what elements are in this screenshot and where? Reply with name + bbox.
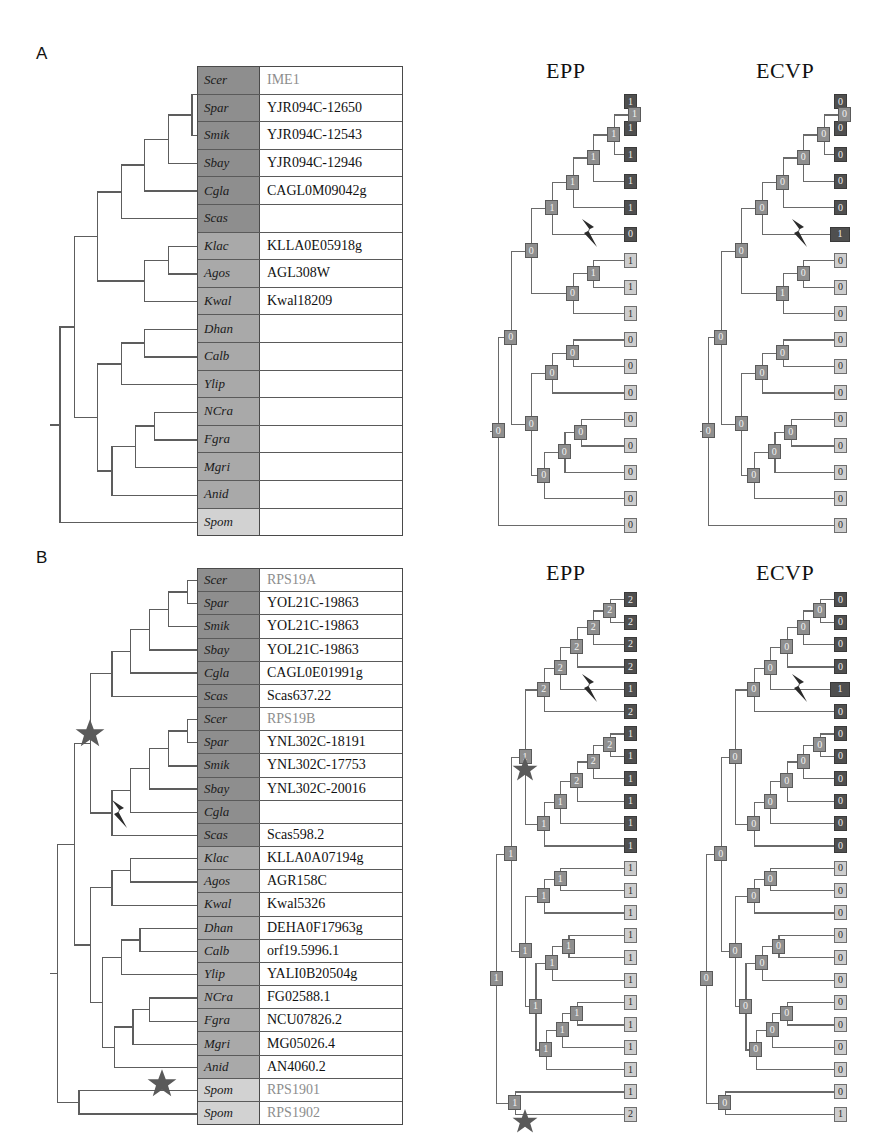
tree-branch bbox=[791, 445, 834, 446]
table-row: Calborf19.5996.1 bbox=[198, 940, 402, 963]
leaf-state-box: 0 bbox=[834, 592, 847, 607]
leaf-state-box: 0 bbox=[834, 412, 847, 427]
internal-node-state-box: 0 bbox=[492, 423, 505, 438]
leaf-state-box: 1 bbox=[834, 1107, 847, 1122]
species-label: Sbay bbox=[198, 778, 260, 800]
tree-branch bbox=[149, 997, 202, 998]
species-label: Smik bbox=[198, 122, 260, 149]
tree-branch bbox=[168, 591, 169, 626]
table-row: KlacKLLA0A07194g bbox=[198, 847, 402, 870]
table-row: Anid bbox=[198, 481, 402, 509]
tree-branch bbox=[154, 439, 202, 440]
internal-node-state-box: 2 bbox=[603, 603, 616, 618]
panel-a-epp-tree: 111110111000000001111110000000000 bbox=[490, 88, 640, 538]
internal-node-state-box: 0 bbox=[755, 365, 768, 380]
tree-branch bbox=[610, 756, 624, 757]
species-label: Scas bbox=[198, 685, 260, 707]
panel-b-epp-title: EPP bbox=[546, 560, 585, 586]
table-row: AgosAGR158C bbox=[198, 870, 402, 893]
lightning-bolt-icon bbox=[578, 218, 600, 252]
internal-node-state-box: 1 bbox=[562, 939, 575, 954]
tree-branch bbox=[59, 326, 73, 327]
panel-b-gene-table: ScerRPS19ASparYOL21C-19863SmikYOL21C-198… bbox=[197, 568, 403, 1125]
tree-branch bbox=[149, 649, 202, 650]
tree-branch bbox=[498, 525, 624, 526]
panel-b-ecvp-tree: 0000100000000000000000010000000000000000… bbox=[700, 588, 850, 1125]
internal-node-state-box: 0 bbox=[797, 266, 810, 281]
leaf-state-box: 0 bbox=[624, 491, 637, 506]
table-row: SpomRPS1901 bbox=[198, 1079, 402, 1102]
species-label: Scer bbox=[198, 569, 260, 591]
internal-node-state-box: 0 bbox=[545, 365, 558, 380]
internal-node-state-box: 1 bbox=[554, 794, 567, 809]
leaf-state-box: 0 bbox=[834, 491, 847, 506]
tree-branch bbox=[74, 743, 75, 945]
panel-b-letter: B bbox=[36, 548, 47, 568]
panel-a-epp-title: EPP bbox=[546, 58, 585, 84]
tree-branch bbox=[725, 1114, 834, 1115]
internal-node-state-box: 2 bbox=[587, 754, 600, 769]
tree-branch bbox=[130, 858, 131, 881]
tree-branch bbox=[132, 1009, 133, 1044]
internal-node-state-box: 1 bbox=[554, 871, 567, 886]
gene-name: NCU07826.2 bbox=[260, 1009, 402, 1031]
tree-branch bbox=[57, 844, 73, 845]
internal-node-state-box: 0 bbox=[525, 416, 538, 431]
leaf-state-box: 0 bbox=[834, 615, 847, 630]
tree-branch bbox=[754, 711, 834, 712]
species-label: Spom bbox=[198, 1102, 260, 1124]
tree-branch bbox=[132, 1044, 202, 1045]
species-label: Smik bbox=[198, 615, 260, 637]
internal-node-state-box: 0 bbox=[784, 425, 797, 440]
internal-node-state-box: 1 bbox=[545, 200, 558, 215]
tree-branch bbox=[820, 733, 834, 734]
tree-branch bbox=[139, 928, 202, 929]
leaf-state-box: 1 bbox=[624, 1062, 637, 1077]
internal-node-state-box: 0 bbox=[525, 243, 538, 258]
tree-branch bbox=[78, 1090, 79, 1113]
species-label: Calb bbox=[198, 940, 260, 962]
internal-node-state-box: 1 bbox=[628, 107, 641, 122]
internal-node-state-box: 0 bbox=[813, 603, 826, 618]
tree-branch bbox=[59, 326, 60, 522]
tree-branch bbox=[515, 1091, 624, 1092]
internal-node-state-box: 0 bbox=[755, 955, 768, 970]
leaf-state-box: 1 bbox=[624, 1040, 637, 1055]
leaf-state-box: 1 bbox=[624, 816, 637, 831]
panel-b-ecvp-title: ECVP bbox=[756, 560, 814, 586]
gene-name bbox=[260, 315, 402, 342]
tree-branch bbox=[135, 425, 136, 466]
leaf-state-box: 2 bbox=[624, 592, 637, 607]
tree-branch bbox=[97, 363, 98, 470]
tree-branch bbox=[593, 644, 624, 645]
gene-name: IME1 bbox=[260, 67, 402, 94]
tree-branch bbox=[97, 470, 111, 471]
internal-node-state-box: 0 bbox=[749, 1042, 762, 1057]
internal-node-state-box: 1 bbox=[587, 266, 600, 281]
tree-branch bbox=[824, 154, 834, 155]
table-row: SparYOL21C-19863 bbox=[198, 592, 402, 615]
leaf-state-box: 0 bbox=[834, 749, 847, 764]
internal-node-state-box: 0 bbox=[772, 939, 785, 954]
species-label: Ylip bbox=[198, 963, 260, 985]
tree-branch bbox=[803, 181, 834, 182]
table-row: ScerIME1 bbox=[198, 67, 402, 95]
tree-branch bbox=[577, 801, 624, 802]
tree-branch bbox=[546, 1069, 624, 1070]
leaf-state-box: 0 bbox=[624, 518, 637, 533]
tree-branch bbox=[593, 260, 624, 261]
tree-branch bbox=[111, 870, 130, 871]
tree-branch bbox=[787, 1002, 834, 1003]
table-row: KlacKLLA0E05918g bbox=[198, 233, 402, 261]
internal-node-state-box: 0 bbox=[764, 871, 777, 886]
tree-branch bbox=[111, 835, 202, 836]
tree-branch bbox=[50, 424, 59, 425]
tree-branch bbox=[149, 609, 150, 650]
internal-node-state-box: 0 bbox=[714, 330, 727, 345]
leaf-state-box: 2 bbox=[624, 637, 637, 652]
internal-node-state-box: 0 bbox=[739, 999, 752, 1014]
tree-branch bbox=[139, 928, 140, 951]
internal-node-state-box: 1 bbox=[566, 175, 579, 190]
table-row: Fgra bbox=[198, 426, 402, 454]
internal-node-state-box: 1 bbox=[776, 286, 789, 301]
